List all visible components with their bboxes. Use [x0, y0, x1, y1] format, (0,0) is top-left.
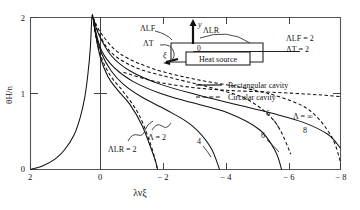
x-tick-label-1: 0 [98, 172, 102, 182]
inset-xi-label: ξ [163, 51, 167, 60]
inset-lr-label-text: ΛLR [203, 26, 220, 35]
figure-background [0, 0, 360, 210]
inset-lf-label-text: ΛLF [140, 24, 156, 33]
figure-container: 2 0 − 2 − 4 − 6 − 8 0 1 2 θH/n λνξ [0, 0, 360, 210]
annotation-lambda-inf: Λ = ∞ [293, 112, 313, 121]
x-tick-label-2: − 2 [157, 172, 168, 182]
inset-origin-label: 0 [197, 44, 201, 53]
x-tick-label-3: − 4 [220, 172, 232, 182]
x-tick-label-4: − 6 [283, 172, 294, 182]
annotation-curve-8: 8 [303, 126, 307, 135]
inset-lf-label: ΛLF [140, 24, 156, 33]
annotation-curve-6a: 6 [266, 109, 270, 118]
annotation-curve-4: 4 [197, 137, 201, 146]
x-tick-label-0: 2 [28, 172, 32, 182]
x-tick-label-5: − 8 [335, 172, 346, 182]
y-tick-label-0: 0 [21, 164, 25, 174]
inset-y-label: y [197, 20, 202, 29]
inset-lr-label: ΛLR [203, 26, 220, 35]
y-axis-title: θH/n [4, 86, 14, 104]
y-tick-label-1: 1 [21, 89, 25, 99]
x-axis-title: λνξ [133, 187, 147, 199]
parameter-t: ΛT = 2 [286, 45, 309, 54]
parameter-lf: ΛLF = 2 [286, 34, 314, 43]
chart-svg: 2 0 − 2 − 4 − 6 − 8 0 1 2 θH/n λνξ [0, 0, 360, 210]
annotation-lambda-2: Λ = 2 [148, 133, 166, 142]
inset-t-label: ΛT [143, 39, 154, 48]
y-tick-label-2: 2 [21, 13, 25, 23]
inset-t-label-text: ΛT [143, 39, 154, 48]
legend-label-rectangular: Rectangular cavity [228, 81, 288, 90]
annotation-curve-6b: 6 [261, 131, 265, 140]
annotation-lambda-lr: ΛLR = 2 [108, 145, 137, 154]
legend-label-circular: Circular cavity [228, 93, 276, 102]
inset-heat-source-label: Heat source [199, 55, 237, 64]
